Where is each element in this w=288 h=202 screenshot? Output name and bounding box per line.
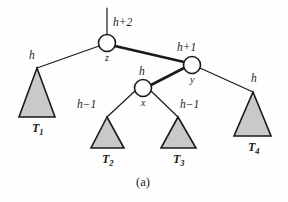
subtree-triangle-T1	[19, 68, 55, 117]
label-T3-subscript: 3	[180, 158, 184, 168]
subtree-triangle-T4	[234, 92, 271, 136]
h-t1: h	[29, 50, 35, 62]
label-T1: T1	[32, 122, 44, 137]
tree-node-y	[184, 57, 201, 74]
tree-node-z	[99, 35, 116, 52]
h-t4: h	[251, 73, 257, 85]
label-T1-subscript: 1	[39, 127, 43, 137]
subtree-triangle-T2	[91, 117, 124, 148]
label-z: z	[105, 53, 109, 63]
subtree-triangle-T3	[161, 117, 196, 148]
h-t3: h−1	[180, 99, 199, 111]
label-T4: T4	[248, 141, 260, 156]
h-t2: h−1	[77, 99, 96, 111]
tree-node-x	[135, 80, 152, 97]
edge-y-to-x	[151, 68, 184, 85]
h-x: h	[139, 66, 145, 78]
label-y: y	[190, 75, 194, 85]
label-T2: T2	[102, 153, 114, 168]
edge-z-to-T1	[37, 46, 99, 68]
edge-x-to-T3	[151, 91, 178, 117]
label-T2-subscript: 2	[109, 158, 113, 168]
figure-caption: (a)	[136, 176, 150, 189]
edge-x-to-T2	[107, 91, 135, 117]
label-T4-subscript: 4	[255, 146, 259, 156]
label-x: x	[141, 98, 145, 108]
edge-z-to-y	[115, 46, 184, 62]
avl-tree-figure: h+2h+1hhh−1h−1h zyx T1T2T3T4 (a)	[0, 0, 288, 202]
h-plus-1: h+1	[177, 42, 196, 54]
label-T3: T3	[173, 153, 185, 168]
h-plus-2: h+2	[113, 17, 132, 29]
edge-y-to-T4	[200, 68, 253, 92]
